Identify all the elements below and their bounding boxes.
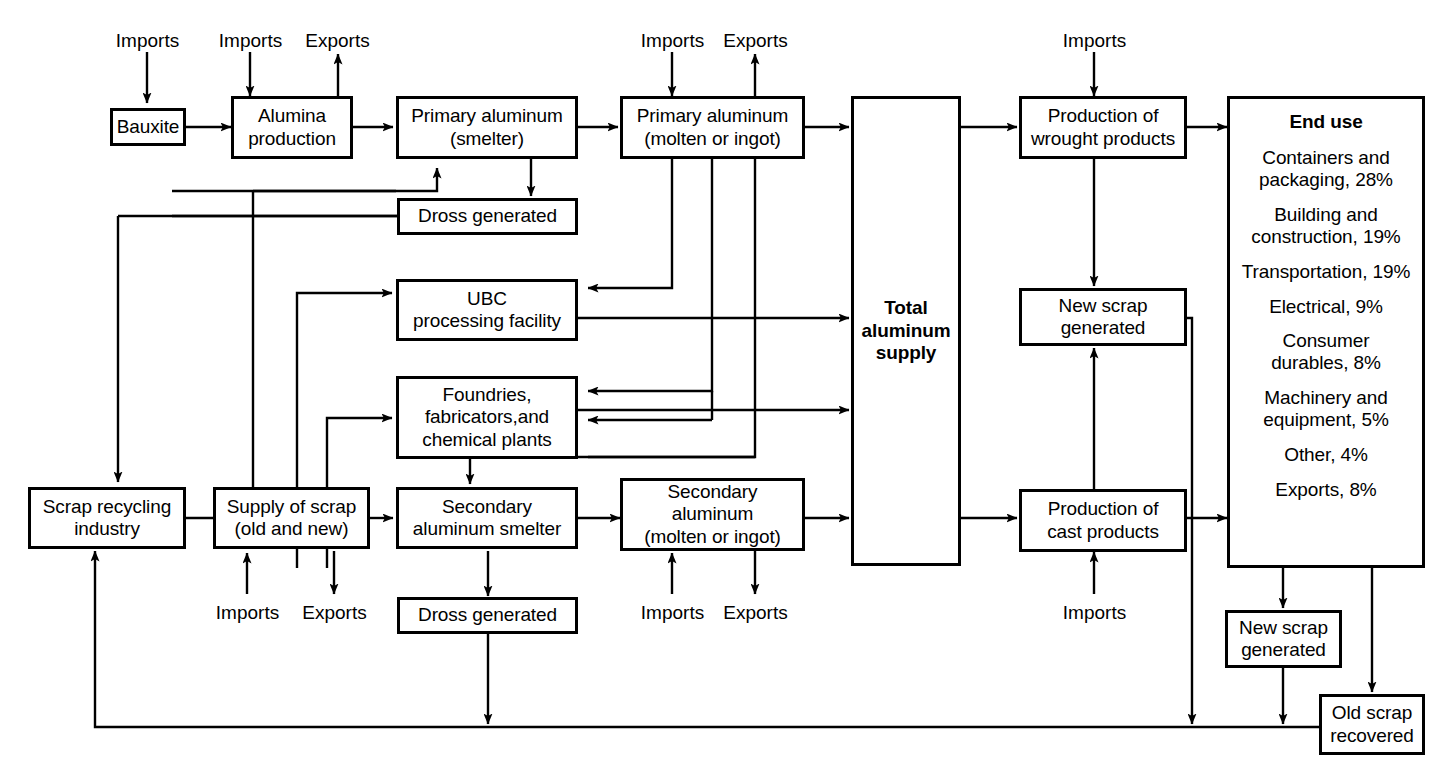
node-alumina-production-line-1: production <box>248 128 336 150</box>
end-use-item-4: Consumer durables, 8% <box>1265 330 1387 374</box>
end-use-item-5: Machinery and equipment, 5% <box>1257 387 1394 431</box>
end-use-item-1: Building and construction, 19% <box>1245 204 1406 248</box>
node-production-wrought-products[interactable]: Production of wrought products <box>1019 96 1187 159</box>
node-wrought-line-0: Production of <box>1048 105 1159 127</box>
node-dross-generated-bottom[interactable]: Dross generated <box>397 597 578 634</box>
node-secondary-smelter-line-1: aluminum smelter <box>413 518 561 540</box>
node-cast-line-1: cast products <box>1047 521 1159 543</box>
node-primary-smelter-line-1: (smelter) <box>450 128 524 150</box>
node-new-scrap-generated-bottom[interactable]: New scrap generated <box>1225 610 1342 668</box>
node-alumina-production-line-0: Alumina <box>258 105 326 127</box>
node-supply-of-scrap-line-0: Supply of scrap <box>227 496 356 518</box>
node-production-cast-products[interactable]: Production of cast products <box>1019 489 1187 552</box>
end-use-item-2: Transportation, 19% <box>1236 261 1417 283</box>
flowchart-canvas: Imports Imports Exports Imports Exports … <box>0 0 1452 780</box>
node-new-scrap-top-line-1: generated <box>1061 317 1146 339</box>
label-imports-secondary-molten: Imports <box>635 602 710 624</box>
node-dross-generated-bottom-line-0: Dross generated <box>418 604 557 626</box>
node-ubc-processing-facility[interactable]: UBC processing facility <box>396 279 578 341</box>
node-old-scrap-line-1: recovered <box>1330 725 1414 747</box>
node-scrap-recycling-industry[interactable]: Scrap recycling industry <box>28 487 186 549</box>
node-foundries-line-1: fabricators,and <box>425 406 549 428</box>
node-old-scrap-recovered[interactable]: Old scrap recovered <box>1319 694 1425 755</box>
node-primary-smelter-line-0: Primary aluminum <box>411 105 563 127</box>
node-total-supply-line-2: supply <box>876 342 937 364</box>
node-secondary-molten-line-2: (molten or ingot) <box>644 526 781 548</box>
node-new-scrap-generated-top[interactable]: New scrap generated <box>1019 288 1187 346</box>
node-primary-molten-line-0: Primary aluminum <box>637 105 789 127</box>
node-supply-of-scrap-line-1: (old and new) <box>235 518 349 540</box>
node-old-scrap-line-0: Old scrap <box>1332 702 1412 724</box>
node-supply-of-scrap[interactable]: Supply of scrap (old and new) <box>213 487 370 549</box>
label-imports-alumina: Imports <box>213 30 288 52</box>
node-secondary-molten-line-1: aluminum <box>672 503 754 525</box>
node-bauxite[interactable]: Bauxite <box>110 108 186 146</box>
node-dross-generated-top-line-0: Dross generated <box>418 205 557 227</box>
node-foundries-line-0: Foundries, <box>443 384 532 406</box>
end-use-title: End use <box>1289 111 1362 133</box>
label-exports-primary-molten: Exports <box>718 30 793 52</box>
label-imports-wrought: Imports <box>1057 30 1132 52</box>
node-secondary-molten-line-0: Secondary <box>668 481 758 503</box>
node-alumina-production[interactable]: Alumina production <box>231 96 353 159</box>
node-end-use[interactable]: End use Containers and packaging, 28% Bu… <box>1227 96 1425 568</box>
node-ubc-line-1: processing facility <box>413 310 561 332</box>
node-primary-molten[interactable]: Primary aluminum (molten or ingot) <box>620 96 805 159</box>
node-secondary-aluminum-smelter[interactable]: Secondary aluminum smelter <box>396 487 578 549</box>
label-imports-primary-molten: Imports <box>635 30 710 52</box>
label-exports-alumina: Exports <box>300 30 375 52</box>
node-secondary-smelter-line-0: Secondary <box>442 496 532 518</box>
end-use-item-7: Exports, 8% <box>1269 479 1382 501</box>
label-imports-bauxite: Imports <box>110 30 185 52</box>
node-new-scrap-top-line-0: New scrap <box>1059 295 1148 317</box>
node-new-scrap-bottom-line-1: generated <box>1241 639 1326 661</box>
label-exports-secondary-molten: Exports <box>718 602 793 624</box>
node-new-scrap-bottom-line-0: New scrap <box>1239 617 1328 639</box>
node-total-supply-line-1: aluminum <box>862 320 951 342</box>
node-wrought-line-1: wrought products <box>1031 128 1175 150</box>
node-foundries-line-2: chemical plants <box>422 429 551 451</box>
node-primary-smelter[interactable]: Primary aluminum (smelter) <box>396 96 578 159</box>
node-scrap-recycling-line-1: industry <box>74 518 140 540</box>
node-total-aluminum-supply[interactable]: Total aluminum supply <box>851 96 961 566</box>
node-primary-molten-line-1: (molten or ingot) <box>644 128 781 150</box>
node-bauxite-line-0: Bauxite <box>117 116 180 138</box>
node-secondary-aluminum-molten[interactable]: Secondary aluminum (molten or ingot) <box>620 478 805 551</box>
node-total-supply-line-0: Total <box>884 297 927 319</box>
label-exports-supply-scrap: Exports <box>297 602 372 624</box>
node-foundries[interactable]: Foundries, fabricators,and chemical plan… <box>396 376 578 459</box>
node-cast-line-0: Production of <box>1048 498 1159 520</box>
node-dross-generated-top[interactable]: Dross generated <box>397 198 578 235</box>
node-scrap-recycling-line-0: Scrap recycling <box>43 496 171 518</box>
label-imports-supply-scrap: Imports <box>210 602 285 624</box>
end-use-item-6: Other, 4% <box>1278 444 1374 466</box>
label-imports-cast: Imports <box>1057 602 1132 624</box>
end-use-item-3: Electrical, 9% <box>1263 296 1389 318</box>
node-ubc-line-0: UBC <box>467 288 507 310</box>
end-use-item-0: Containers and packaging, 28% <box>1253 147 1399 191</box>
